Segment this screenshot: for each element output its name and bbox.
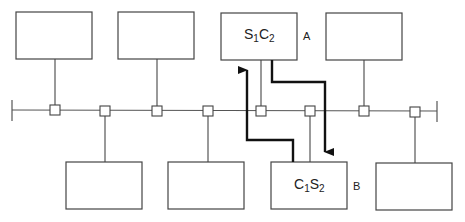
node-a-tag: A bbox=[303, 30, 310, 42]
flow-a-to-b bbox=[272, 60, 325, 152]
bus-line bbox=[12, 100, 437, 122]
network-diagram bbox=[0, 0, 465, 222]
node-top-2 bbox=[118, 12, 194, 59]
flow-b-to-a bbox=[247, 70, 293, 162]
node-top-4 bbox=[326, 13, 402, 60]
node-bottom-4 bbox=[376, 163, 452, 210]
node-a-label: S1C2 bbox=[244, 26, 275, 44]
node-b-label: C1S2 bbox=[294, 176, 325, 194]
node-bottom-1 bbox=[66, 162, 142, 209]
node-b-tag: B bbox=[353, 180, 360, 192]
node-bottom-2 bbox=[168, 162, 244, 209]
node-top-1 bbox=[16, 12, 92, 59]
